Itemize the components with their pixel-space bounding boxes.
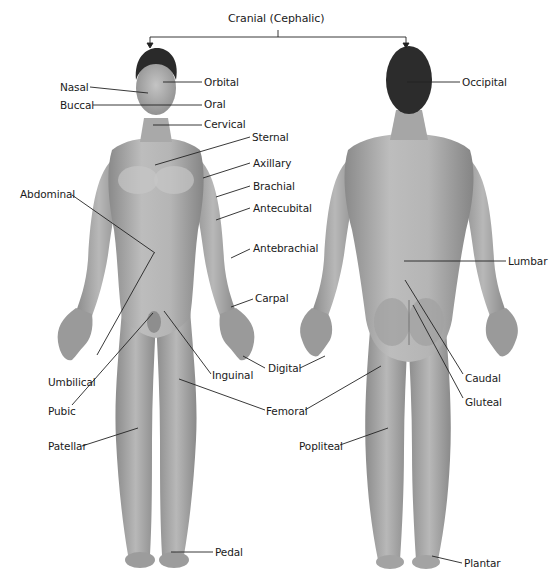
label-abdominal: Abdominal [20,188,75,200]
label-gluteal: Gluteal [465,396,502,408]
label-inguinal: Inguinal [212,369,253,381]
posterior-figure [300,46,518,569]
label-patellar: Patellar [48,440,87,452]
label-orbital: Orbital [204,76,239,88]
label-sternal: Sternal [252,131,289,143]
label-carpal: Carpal [255,292,289,304]
label-oral: Oral [204,98,226,110]
label-cranial: Cranial (Cephalic) [228,13,324,25]
label-digital: Digital [268,362,301,374]
label-occipital: Occipital [462,76,507,88]
label-nasal: Nasal [60,81,89,93]
label-antebrachial: Antebrachial [253,242,318,254]
label-cervical: Cervical [204,118,246,130]
label-lumbar: Lumbar [508,255,547,267]
label-umbilical: Umbilical [48,376,96,388]
label-antecubital: Antecubital [253,202,312,214]
label-axillary: Axillary [253,157,291,169]
label-plantar: Plantar [464,557,501,569]
label-femoral: Femoral [266,405,308,417]
anatomy-diagram: Cranial (Cephalic) Nasal Buccal Orbital … [0,0,558,587]
label-popliteal: Popliteal [299,440,343,452]
label-brachial: Brachial [253,180,295,192]
label-buccal: Buccal [60,99,94,111]
label-pedal: Pedal [215,546,243,558]
label-pubic: Pubic [48,405,76,417]
label-caudal: Caudal [465,372,501,384]
